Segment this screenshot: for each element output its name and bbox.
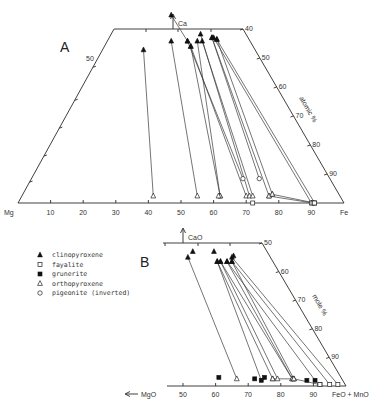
panel-a-left-label: Mg [4, 209, 14, 217]
clinopyroxene-marker [195, 38, 200, 43]
legend-item: fayalite [38, 261, 83, 269]
panel-a-right-tick-label: 80 [312, 141, 320, 148]
legend-item: orthopyroxene [38, 280, 103, 288]
orthopyroxene-marker [234, 376, 239, 381]
panel-a-tieline [171, 15, 187, 41]
legend-item: clinopyroxene [38, 251, 103, 259]
panel-a-tieline [191, 46, 246, 196]
panel-b-left-label: MgO [141, 391, 157, 399]
panel-a-right-tick [291, 116, 294, 117]
panel-b-tieline [227, 262, 292, 379]
panel-b: CaO B MgO FeO + MnO mole % 5060708090 50… [125, 228, 369, 399]
grunerite-marker [313, 378, 317, 382]
clinopyroxene-marker [212, 249, 217, 254]
fayalite-marker [336, 383, 340, 387]
orthopyroxene-marker [151, 193, 156, 198]
panel-a-right-tick-label: 40 [245, 25, 253, 32]
panel-b-right-tick-label: 60 [281, 268, 289, 275]
panel-b-bottom-tick-label: 70 [244, 391, 252, 398]
panel-a-right-tick-label: 50 [262, 54, 270, 61]
grunerite-marker [38, 272, 42, 276]
panel-a-label: A [60, 39, 70, 55]
panel-a-right-label: Fe [340, 209, 348, 216]
panel-a-left-tick-label: 50 [86, 55, 94, 62]
fayalite-marker [318, 383, 322, 387]
panel-a-right-tick-label: 70 [296, 112, 304, 119]
panel-a-bottom-tick-label: 60 [210, 209, 218, 216]
panel-a-bottom-tick-label: 40 [144, 209, 152, 216]
panel-b-apex-label: CaO [188, 234, 203, 241]
panel-a-points [141, 12, 317, 205]
clinopyroxene-marker [200, 38, 205, 43]
clinopyroxene-marker [198, 31, 203, 36]
panel-b-right-axis [262, 243, 346, 386]
panel-b-right-tick-label: 80 [314, 325, 322, 332]
panel-a-bottom-tick-label: 30 [112, 209, 120, 216]
panel-b-label: B [140, 254, 149, 270]
panel-a-tieline [191, 46, 220, 196]
panel-b-right-ticks: 5060708090 [259, 239, 339, 360]
panel-a-tieline [269, 196, 313, 203]
panel-b-right-tick-label: 70 [298, 296, 306, 303]
orthopyroxene-marker [275, 376, 280, 381]
panel-a-bottom-tick-label: 10 [47, 209, 55, 216]
legend-item-label: pigeonite (inverted) [52, 289, 130, 297]
legend-item: grunerite [38, 270, 87, 278]
panel-a-tieline [212, 38, 259, 179]
panel-b-right-label: FeO + MnO [332, 391, 369, 398]
panel-b-tieline [227, 262, 315, 381]
orthopyroxene-marker [195, 193, 200, 198]
panel-a-bottom-tick-label: 80 [275, 209, 283, 216]
clinopyroxene-marker [169, 38, 174, 43]
pyroxene-quadrilateral-figure: Ca A Mg Fe 50 atomic % 10203040506070809… [0, 0, 374, 405]
panel-a-tieline [217, 39, 315, 203]
panel-a-bottom-tick-label: 50 [177, 209, 185, 216]
legend-item-label: fayalite [52, 261, 83, 269]
legend: clinopyroxenefayalitegruneriteorthopyrox… [38, 251, 131, 297]
panel-a-bottom-tick-label: 90 [307, 209, 315, 216]
panel-a-right-tick [257, 58, 260, 59]
pigeonite-marker [257, 176, 261, 180]
pigeonite-marker [241, 176, 245, 180]
panel-a: Ca A Mg Fe 50 atomic % 10203040506070809… [4, 12, 348, 217]
panel-b-right-tick [326, 357, 329, 358]
panel-a-right-ticks: 405060708090 [240, 25, 337, 177]
grunerite-marker [253, 377, 257, 381]
panel-a-right-tick [324, 174, 327, 175]
fayalite-marker [251, 201, 255, 205]
panel-a-tieline [144, 50, 154, 196]
clinopyroxene-marker [38, 252, 43, 257]
panel-a-tieline [197, 41, 220, 196]
panel-b-right-tick [293, 300, 296, 301]
clinopyroxene-marker [225, 259, 230, 264]
grunerite-marker [263, 375, 267, 379]
panel-b-tieline [220, 262, 277, 379]
panel-b-right-tick-label: 50 [264, 239, 272, 246]
panel-b-tieline [217, 262, 272, 379]
panel-a-axis-title: atomic % [298, 95, 318, 123]
grunerite-marker [305, 378, 309, 382]
panel-b-bottom-ticks: 5060708090 [179, 383, 317, 398]
panel-a-right-tick [307, 145, 310, 146]
panel-a-right-tick [274, 87, 277, 88]
clinopyroxene-marker [218, 259, 223, 264]
fayalite-marker [328, 383, 332, 387]
panel-a-tieline [171, 41, 197, 196]
panel-b-tieline [217, 262, 261, 381]
orthopyroxene-marker [270, 191, 275, 196]
grunerite-marker [217, 375, 221, 379]
legend-item: pigeonite (inverted) [38, 289, 130, 297]
panel-b-tielines [188, 257, 338, 384]
panel-a-bottom-tick-label: 70 [242, 209, 250, 216]
panel-b-right-tick [276, 272, 279, 273]
clinopyroxene-marker [141, 47, 146, 52]
panel-b-axis-title: mole % [311, 293, 329, 317]
panel-b-points [185, 249, 339, 387]
panel-a-bottom-tick-label: 20 [79, 209, 87, 216]
panel-b-bottom-tick-label: 60 [212, 391, 220, 398]
clinopyroxene-marker [185, 254, 190, 259]
fayalite-marker [313, 201, 317, 205]
panel-a-right-tick-label: 60 [279, 83, 287, 90]
orthopyroxene-marker [270, 376, 275, 381]
panel-a-apex-label: Ca [178, 20, 187, 27]
